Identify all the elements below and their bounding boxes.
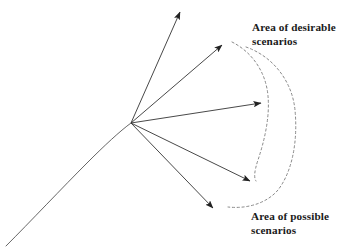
historical-trajectory-curve	[6, 123, 131, 246]
scenario-arrow-4	[131, 123, 250, 181]
label-area-of-desirable-scenarios: Area of desirable scenarios	[252, 21, 336, 48]
label-area-of-possible-scenarios: Area of possible scenarios	[251, 210, 329, 237]
desirable-scenarios-boundary	[232, 42, 268, 181]
possible-label-line-1: Area of possible	[251, 210, 329, 224]
envelope-curves-group	[228, 42, 296, 207]
desirable-label-line-2: scenarios	[252, 35, 336, 49]
possible-label-line-2: scenarios	[251, 224, 329, 238]
scenario-arrows-group	[131, 12, 261, 208]
scenario-arrow-1	[131, 12, 180, 123]
desirable-label-line-1: Area of desirable	[252, 21, 336, 35]
scenario-arrow-5	[131, 123, 213, 208]
scenario-fan-diagram: Area of desirable scenarios Area of poss…	[0, 0, 350, 247]
possible-scenarios-boundary	[228, 47, 296, 207]
